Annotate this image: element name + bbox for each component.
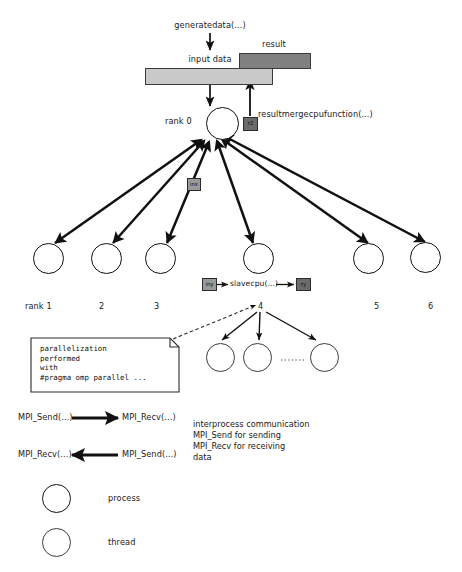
rank0-r2-tag: r2: [243, 117, 258, 131]
input-data-bar: [145, 68, 273, 85]
legend-thread-circle: [42, 528, 71, 557]
arrow-rank0-rank5: [222, 139, 368, 243]
legend-communication-description: interprocess communication MPI_Send for …: [193, 419, 309, 463]
arrow-rank4-thread2: [259, 312, 260, 340]
arrow-rank4-thread3: [266, 312, 316, 340]
rank0-label: rank 0: [165, 117, 192, 126]
rank-label-4: 4: [258, 302, 263, 311]
rank3-process-circle[interactable]: [145, 243, 176, 274]
thread-circle-n[interactable]: [310, 343, 339, 372]
input-data-label: input data: [188, 55, 231, 64]
rank0-process-circle[interactable]: [206, 107, 239, 140]
legend-thread-label: thread: [108, 538, 135, 547]
rank4-process-circle[interactable]: [243, 243, 274, 274]
legend-process-circle: [42, 484, 71, 513]
thread-circle-1[interactable]: [206, 343, 235, 372]
arrow-rank0-rank2: [113, 141, 204, 243]
rank-label-1: rank 1: [25, 302, 52, 311]
rank-label-6: 6: [428, 302, 433, 311]
legend-send-label-row1: MPI_Send(...): [18, 413, 73, 422]
legend-send-label-row2: MPI_Send(...): [122, 450, 177, 459]
thread-fan-arrows: [222, 312, 316, 340]
diagram-canvas: generatedata(...) input data result rank…: [0, 0, 462, 572]
generatedata-label: generatedata(...): [174, 21, 245, 30]
rank0-fan-arrows: [55, 136, 425, 243]
thread-circle-2[interactable]: [243, 343, 272, 372]
rank5-process-circle[interactable]: [353, 243, 384, 274]
slavecpu-function-label: slavecpu(...): [230, 280, 278, 289]
rank6-process-circle[interactable]: [410, 242, 441, 273]
legend-process-label: process: [108, 494, 140, 503]
openmp-note-text: parallelization performed with #pragma o…: [40, 344, 147, 382]
rank-label-2: 2: [99, 302, 104, 311]
legend-recv-label-row2: MPI_Recv(...): [18, 450, 72, 459]
arrow-rank0-rank3: [167, 142, 209, 243]
resultmerge-label: resultmergecpufunction(...): [258, 110, 373, 119]
arrow-rank4-thread1: [222, 312, 257, 340]
arrow-rank0-rank6: [224, 136, 425, 242]
iny-tag: iny: [202, 278, 217, 291]
openmp-note-box: parallelization performed with #pragma o…: [31, 338, 179, 392]
result-bar: [239, 53, 311, 69]
ry-tag: ry: [296, 278, 311, 291]
rank-label-3: 3: [154, 302, 159, 311]
inx-tag: inx: [187, 178, 201, 191]
arrow-rank0-rank1: [55, 140, 201, 243]
legend-recv-label-row1: MPI_Recv(...): [122, 413, 176, 422]
rank2-process-circle[interactable]: [91, 243, 122, 274]
rank-label-5: 5: [374, 302, 379, 311]
result-label: result: [262, 40, 286, 49]
arrow-rank0-rank4: [217, 141, 253, 243]
rank1-process-circle[interactable]: [33, 243, 64, 274]
